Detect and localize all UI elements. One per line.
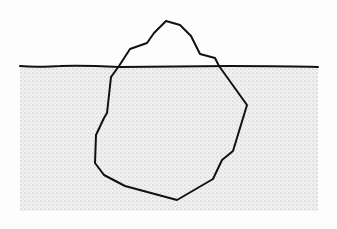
iceberg-figure [0, 0, 337, 229]
waterline [20, 66, 318, 67]
iceberg-diagram [0, 0, 337, 229]
water-region [20, 66, 318, 211]
